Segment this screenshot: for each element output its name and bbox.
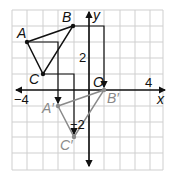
tick-y-2: 2 xyxy=(79,50,86,65)
origin-label: O xyxy=(93,74,104,90)
tick-y-neg2: −2 xyxy=(70,117,85,132)
y-axis-label: y xyxy=(92,7,101,23)
triangle-abc xyxy=(27,26,73,74)
x-axis-label: x xyxy=(156,91,165,107)
label-c-prime: C′ xyxy=(60,137,74,153)
label-a: A xyxy=(16,25,26,41)
label-c: C xyxy=(29,71,40,87)
label-b-prime: B′ xyxy=(107,90,120,106)
label-a-prime: A′ xyxy=(41,100,55,116)
label-b: B xyxy=(62,9,71,25)
tick-x-4: 4 xyxy=(145,75,152,90)
axes xyxy=(16,12,165,166)
tick-x-neg4: −4 xyxy=(14,92,29,107)
coordinate-plane: A B C A′ B′ C′ y x O −4 4 2 −2 xyxy=(0,0,175,177)
